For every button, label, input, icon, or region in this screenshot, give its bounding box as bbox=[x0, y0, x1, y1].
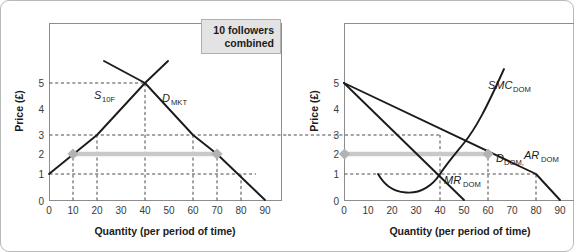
figure-container: 0 1 2 3 4 5 0 10 20 30 40 50 60 70 80 90 bbox=[0, 0, 574, 252]
svg-text:DOM: DOM bbox=[463, 180, 481, 189]
xtick-30: 30 bbox=[115, 205, 127, 216]
y-axis-title: Price (£) bbox=[13, 90, 25, 131]
xtick-80: 80 bbox=[235, 205, 247, 216]
ytick-2: 2 bbox=[38, 149, 44, 160]
xtick-80: 80 bbox=[530, 205, 542, 216]
y-axis-title: Price (£) bbox=[308, 90, 320, 131]
ytick-5: 5 bbox=[333, 78, 339, 89]
xtick-70: 70 bbox=[506, 205, 518, 216]
ytick-0: 0 bbox=[333, 196, 339, 207]
ytick-2: 2 bbox=[333, 149, 339, 160]
svg-text:DOM: DOM bbox=[513, 85, 531, 94]
xtick-60: 60 bbox=[482, 205, 494, 216]
supply-curve-followers bbox=[49, 61, 168, 174]
ytick-4: 4 bbox=[38, 104, 44, 115]
svg-text:DOM: DOM bbox=[541, 155, 559, 164]
ytick-1: 1 bbox=[333, 169, 339, 180]
xtick-60: 60 bbox=[187, 205, 199, 216]
ytick-4: 4 bbox=[333, 104, 339, 115]
xtick-0: 0 bbox=[46, 205, 52, 216]
x-axis-ticks: 0 10 20 30 40 50 60 70 80 90 bbox=[46, 205, 271, 216]
y-axis-ticks: 0 1 2 3 4 5 bbox=[38, 78, 44, 207]
ytick-0: 0 bbox=[38, 196, 44, 207]
xtick-10: 10 bbox=[67, 205, 79, 216]
svg-text:S: S bbox=[94, 89, 102, 101]
xtick-70: 70 bbox=[211, 205, 223, 216]
chart-dominant-leader: 0 1 2 3 4 5 0 10 20 30 40 50 60 70 80 90… bbox=[288, 1, 574, 252]
xtick-20: 20 bbox=[386, 205, 398, 216]
ytick-3: 3 bbox=[38, 130, 44, 141]
caption-line-2: combined bbox=[208, 37, 274, 50]
guide-lines bbox=[288, 135, 536, 201]
xtick-90: 90 bbox=[554, 205, 566, 216]
xtick-90: 90 bbox=[259, 205, 271, 216]
panel-caption-followers: 10 followers combined bbox=[201, 19, 281, 54]
ytick-1: 1 bbox=[38, 169, 44, 180]
curve-label-demand-ar-dominant: D DOM, AR DOM bbox=[496, 149, 559, 167]
svg-text:AR: AR bbox=[523, 149, 539, 161]
svg-text:DOM,: DOM, bbox=[504, 158, 524, 167]
svg-text:MR: MR bbox=[444, 174, 461, 186]
svg-text:D: D bbox=[496, 152, 504, 164]
y-axis-ticks: 0 1 2 3 4 5 bbox=[333, 78, 339, 207]
curve-label-supply: S 10F bbox=[94, 89, 115, 104]
ytick-3: 3 bbox=[333, 130, 339, 141]
xtick-10: 10 bbox=[362, 205, 374, 216]
xtick-20: 20 bbox=[91, 205, 103, 216]
panel-dominant-leader: 0 1 2 3 4 5 0 10 20 30 40 50 60 70 80 90… bbox=[288, 1, 574, 252]
svg-text:10F: 10F bbox=[102, 95, 115, 104]
x-axis-ticks: 0 10 20 30 40 50 60 70 80 90 bbox=[341, 205, 566, 216]
svg-text:SMC: SMC bbox=[488, 79, 513, 91]
svg-text:D: D bbox=[162, 92, 170, 104]
panel-followers: 0 1 2 3 4 5 0 10 20 30 40 50 60 70 80 90 bbox=[1, 1, 288, 252]
x-axis-title: Quantity (per period of time) bbox=[94, 225, 235, 237]
x-axis-title: Quantity (per period of time) bbox=[389, 225, 530, 237]
caption-line-1: 10 followers bbox=[208, 24, 274, 37]
xtick-0: 0 bbox=[341, 205, 347, 216]
xtick-40: 40 bbox=[434, 205, 446, 216]
xtick-30: 30 bbox=[410, 205, 422, 216]
xtick-50: 50 bbox=[458, 205, 470, 216]
xtick-50: 50 bbox=[163, 205, 175, 216]
demand-curve-market bbox=[104, 61, 265, 200]
xtick-40: 40 bbox=[139, 205, 151, 216]
ytick-5: 5 bbox=[38, 78, 44, 89]
svg-text:MKT: MKT bbox=[171, 98, 187, 107]
